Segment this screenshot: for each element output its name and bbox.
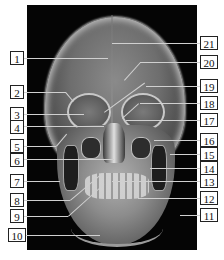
leader-line-15 [170,154,200,155]
leader-line-3 [24,114,84,115]
skull-xray-image [27,5,197,250]
label-9: 9 [10,209,24,223]
label-6: 6 [10,153,24,167]
label-17: 17 [200,113,218,127]
label-18: 18 [200,96,218,110]
label-15: 15 [200,147,218,161]
leader-line-10 [24,235,100,236]
leader-line-13 [112,181,200,182]
label-3: 3 [10,107,24,121]
label-4: 4 [10,120,24,134]
leader-line-18 [140,103,200,104]
leader-line-14 [150,168,200,169]
label-14: 14 [200,161,218,175]
nasal-cavity [103,123,125,163]
leader-line-19 [146,86,200,87]
label-7: 7 [10,174,24,188]
leader-line-9 [24,216,68,217]
leader-line-1 [24,58,108,59]
label-10: 10 [8,228,26,242]
leader-line-11 [180,215,200,216]
leader-line-17 [126,120,200,121]
label-5: 5 [10,139,24,153]
label-16: 16 [200,133,218,147]
leader-line-5 [24,146,56,147]
label-11: 11 [200,208,218,222]
label-2: 2 [10,85,24,99]
label-20: 20 [200,55,218,69]
label-13: 13 [200,174,218,188]
teeth [85,173,149,199]
label-12: 12 [200,191,218,205]
leader-line-6 [24,159,114,160]
right-maxillary-sinus [131,137,151,159]
leader-line-21 [112,43,200,44]
label-1: 1 [10,51,24,65]
leader-line-2 [24,92,66,93]
leader-line-12 [138,198,200,199]
leader-line-16 [154,140,200,141]
chin-outline [71,210,163,247]
leader-line-4 [24,126,104,127]
label-8: 8 [10,193,24,207]
leader-line-8 [24,200,70,201]
label-21: 21 [200,36,218,50]
label-19: 19 [200,79,218,93]
left-ramus [63,145,79,191]
left-maxillary-sinus [81,137,101,159]
leader-line-7 [24,181,60,182]
leader-line-20 [140,62,200,63]
